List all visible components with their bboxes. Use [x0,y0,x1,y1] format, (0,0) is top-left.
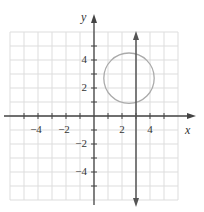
coordinate-plane: x y −4 −2 2 4 4 2 −2 −4 [0,0,204,212]
y-tick-label-neg2: −2 [75,137,87,149]
axes [4,14,196,205]
line-arrow-down-icon [133,198,139,207]
x-axis-arrow-icon [187,113,196,119]
plot-series [104,31,154,207]
x-axis-label: x [184,123,191,137]
y-axis-label: y [80,10,87,24]
y-tick-label-neg4: −4 [75,165,87,177]
x-tick-label-neg4: −4 [30,123,42,135]
y-axis-arrow-icon [91,14,97,23]
y-tick-label-2: 2 [82,81,88,93]
circle-curve [104,53,154,103]
x-tick-label-2: 2 [119,123,125,135]
y-tick-label-4: 4 [82,53,88,65]
x-tick-label-neg2: −2 [58,123,70,135]
x-tick-label-4: 4 [147,123,153,135]
